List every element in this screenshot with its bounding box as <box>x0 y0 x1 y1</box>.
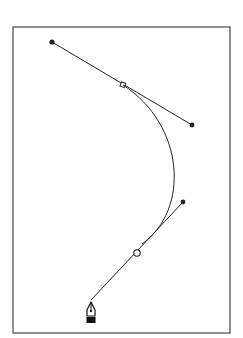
top-left-handle-point[interactable] <box>49 39 54 44</box>
pen-tool-icon <box>87 302 96 323</box>
frame <box>13 27 230 333</box>
top-right-handle-point[interactable] <box>190 123 195 128</box>
lower-anchor-point[interactable] <box>134 250 140 256</box>
lower-right-handle-point[interactable] <box>181 200 186 205</box>
diagram-canvas <box>0 0 243 338</box>
